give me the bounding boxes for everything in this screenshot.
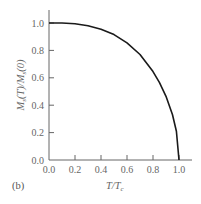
y-tick-label: 0.8 (32, 45, 45, 56)
y-tick-label: 0.4 (32, 100, 45, 111)
x-axis-title: T/Tc (106, 180, 125, 193)
x-ticks: 0.00.20.40.60.81.0 (43, 155, 186, 175)
axes (49, 10, 192, 160)
x-tick-label: 1.0 (173, 164, 186, 175)
y-tick-label: 1.0 (32, 18, 45, 29)
y-ticks: 0.00.20.40.60.81.0 (32, 18, 55, 166)
y-tick-label: 0.2 (32, 127, 45, 138)
x-tick-label: 0.2 (69, 164, 82, 175)
x-tick-label: 0.8 (147, 164, 160, 175)
chart: 0.00.20.40.60.81.0 0.00.20.40.60.81.0 T/… (0, 0, 201, 204)
x-tick-label: 0.4 (95, 164, 108, 175)
panel-label: (b) (12, 180, 25, 192)
y-axis-title: Ms(T)/Ms(0) (15, 59, 28, 111)
y-tick-label: 0.6 (32, 72, 45, 83)
magnetization-curve (49, 23, 179, 160)
x-tick-label: 0.6 (121, 164, 134, 175)
x-tick-label: 0.0 (43, 164, 56, 175)
